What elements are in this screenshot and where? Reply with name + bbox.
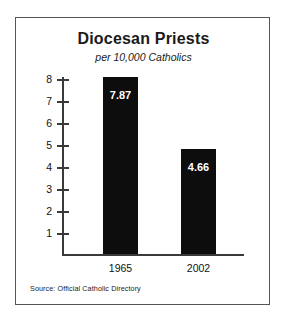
y-axis-tick-label: 8 bbox=[30, 74, 52, 85]
chart-figure: Diocesan Priests per 10,000 Catholics 8 … bbox=[15, 17, 270, 305]
bar-value-1965: 7.87 bbox=[103, 90, 138, 101]
source-note: Source: Official Catholic Directory bbox=[30, 284, 141, 293]
y-axis-tick-label: 3 bbox=[30, 184, 52, 195]
y-axis-tick-label: 6 bbox=[30, 118, 52, 129]
y-axis-tick-label: 7 bbox=[30, 96, 52, 107]
y-axis-tick bbox=[57, 145, 69, 147]
y-axis-tick bbox=[57, 189, 69, 191]
x-axis-label-1965: 1965 bbox=[96, 263, 145, 274]
bar-value-2002: 4.66 bbox=[181, 162, 216, 173]
plot-area: 8 7 6 5 4 3 2 1 7.87 4.66 1965 2002 bbox=[16, 18, 271, 306]
x-axis-label-2002: 2002 bbox=[174, 263, 223, 274]
y-axis-tick-label: 5 bbox=[30, 140, 52, 151]
y-axis-tick bbox=[57, 233, 69, 235]
y-axis-tick-label: 4 bbox=[30, 162, 52, 173]
y-axis-tick bbox=[57, 211, 69, 213]
x-axis-line bbox=[62, 254, 244, 256]
y-axis-tick-label: 2 bbox=[30, 206, 52, 217]
bar-1965[interactable] bbox=[103, 77, 138, 254]
y-axis-tick bbox=[57, 79, 69, 81]
y-axis-tick bbox=[57, 123, 69, 125]
y-axis-line bbox=[62, 77, 64, 255]
y-axis-tick bbox=[57, 167, 69, 169]
y-axis-tick bbox=[57, 101, 69, 103]
y-axis-tick-label: 1 bbox=[30, 228, 52, 239]
